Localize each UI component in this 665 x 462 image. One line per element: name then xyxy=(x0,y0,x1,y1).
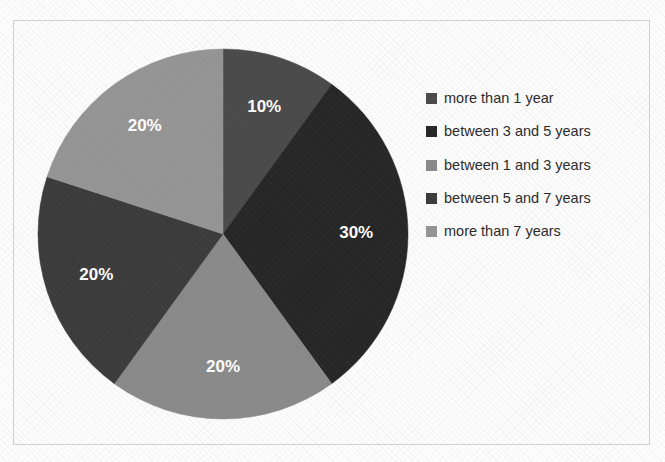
pie-data-label: 30% xyxy=(339,223,373,242)
legend-item[interactable]: more than 1 year xyxy=(426,89,644,108)
legend-item[interactable]: between 1 and 3 years xyxy=(426,156,644,175)
legend-item-label: between 3 and 5 years xyxy=(444,122,591,141)
chart-page: 10%30%20%20%20% more than 1 yearbetween … xyxy=(0,0,665,462)
legend-item-label: between 1 and 3 years xyxy=(444,156,591,175)
chart-frame: 10%30%20%20%20% more than 1 yearbetween … xyxy=(13,20,650,445)
legend-swatch-icon xyxy=(426,193,437,204)
pie-data-label: 20% xyxy=(206,357,240,376)
pie-plot-area: 10%30%20%20%20% xyxy=(14,21,434,446)
legend-item-label: between 5 and 7 years xyxy=(444,189,591,208)
legend-swatch-icon xyxy=(426,160,437,171)
pie-data-label: 20% xyxy=(128,116,162,135)
pie-data-label: 10% xyxy=(247,97,281,116)
legend-swatch-icon xyxy=(426,126,437,137)
legend-swatch-icon xyxy=(426,93,437,104)
chart-legend: more than 1 yearbetween 3 and 5 yearsbet… xyxy=(426,89,644,255)
pie-data-label: 20% xyxy=(79,265,113,284)
pie-chart-svg: 10%30%20%20%20% xyxy=(14,21,434,446)
legend-item[interactable]: between 3 and 5 years xyxy=(426,122,644,141)
legend-item-label: more than 7 years xyxy=(444,222,561,241)
legend-item[interactable]: between 5 and 7 years xyxy=(426,189,644,208)
legend-swatch-icon xyxy=(426,226,437,237)
legend-item-label: more than 1 year xyxy=(444,89,554,108)
legend-item[interactable]: more than 7 years xyxy=(426,222,644,241)
